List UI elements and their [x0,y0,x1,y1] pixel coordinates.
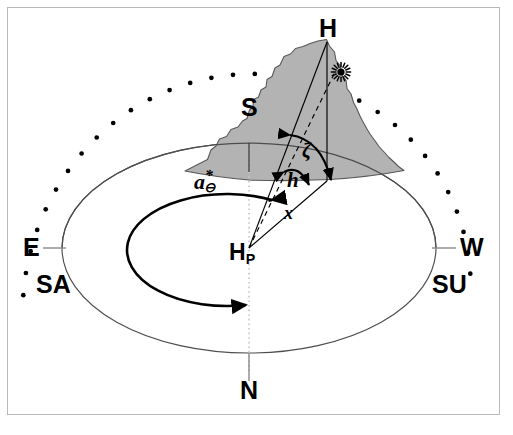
label-north-N: N [240,378,258,403]
azimuth-subscript: ⊖ [204,180,215,195]
label-west-W: W [460,235,484,260]
label-east-E: E [23,235,40,260]
azimuth-sweep-arrow-head-upper [269,200,273,201]
label-sunrise-SA: SA [36,272,71,297]
label-summit-H: H [319,16,337,41]
label-observer-HP: HP [229,241,255,266]
sun-icon [331,62,350,81]
label-azimuth-a: a*⊖ [194,168,215,195]
label-slant-distance-x: x [284,204,293,222]
mountain-silhouette [185,40,404,181]
figure-root: H S N E W SA SU HP ζ h x a*⊖ [0,0,513,435]
observer-base: H [229,239,246,265]
horizon-diagram [0,0,513,435]
label-altitude-h: h [287,170,299,191]
label-sunset-SU: SU [432,272,467,297]
label-zenith-distance-zeta: ζ [302,140,311,161]
observer-subscript: P [246,251,256,267]
label-south-S: S [241,95,258,120]
